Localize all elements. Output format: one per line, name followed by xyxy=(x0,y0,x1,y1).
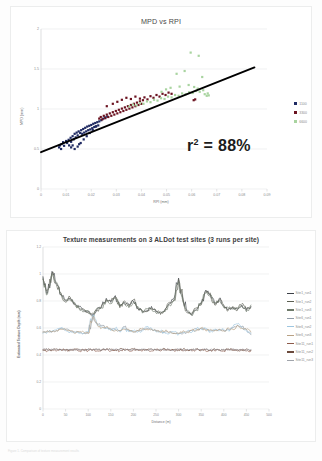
chart1-legend-item: 1100 xyxy=(294,99,307,108)
chart2-legend: Site1_run1Site1_run2Site1_run3Site6_run1… xyxy=(287,289,313,365)
chart2-legend-item: Site11_run2 xyxy=(287,348,313,356)
chart2-ytick: 0 xyxy=(25,407,41,411)
chart2-xtick: 300 xyxy=(169,413,189,417)
chart2-plot-area xyxy=(43,247,269,409)
chart1-xtick: 0.04 xyxy=(130,193,152,197)
chart2-legend-label: Site11_run2 xyxy=(295,350,313,354)
chart2-canvas xyxy=(43,247,269,409)
chart2-xtick: 200 xyxy=(123,413,143,417)
chart1-xtick: 0.02 xyxy=(80,193,102,197)
chart-texture-measurements: Texture measurements on 3 ALDot test sit… xyxy=(6,230,316,442)
chart1-ytick: 1.5 xyxy=(23,67,39,71)
chart2-xaxis-title: Distance (m) xyxy=(7,420,315,424)
chart2-series-3 xyxy=(43,315,251,335)
chart2-xtick: 350 xyxy=(191,413,211,417)
legend-line-icon xyxy=(287,351,294,352)
chart1-xaxis-title: RPI (mm) xyxy=(11,200,311,204)
chart1-canvas xyxy=(41,29,267,189)
chart1-xtick: 0.08 xyxy=(231,193,253,197)
chart2-legend-label: Site6_run1 xyxy=(295,316,311,320)
chart2-legend-label: Site11_run1 xyxy=(295,342,313,346)
legend-line-icon xyxy=(287,301,294,302)
legend-marker-icon xyxy=(294,111,297,114)
chart1-yaxis-title: MPD (mm) xyxy=(20,108,24,125)
chart2-legend-item: Site6_run2 xyxy=(287,323,313,331)
chart1-xtick: 0.07 xyxy=(206,193,228,197)
chart2-legend-label: Site6_run2 xyxy=(295,325,311,329)
legend-line-icon xyxy=(287,335,294,336)
chart1-xtick: 0.06 xyxy=(181,193,203,197)
chart2-xtick: 250 xyxy=(146,413,166,417)
chart2-series-0 xyxy=(43,271,251,315)
chart1-xtick: 0.09 xyxy=(256,193,278,197)
chart2-yaxis-title: Estimated Texture Depth (mm) xyxy=(17,310,21,358)
r-squared-annotation: r2 = 88% xyxy=(187,137,251,155)
chart2-legend-label: Site11_run3 xyxy=(295,358,313,362)
chart1-ytick: 2 xyxy=(23,27,39,31)
chart2-xtick: 100 xyxy=(78,413,98,417)
chart2-series-2 xyxy=(43,274,251,316)
chart2-ytick: 1.2 xyxy=(25,245,41,249)
chart2-legend-item: Site11_run1 xyxy=(287,339,313,347)
chart1-ytick: 0 xyxy=(23,187,39,191)
chart2-xtick: 500 xyxy=(259,413,279,417)
chart2-series-1 xyxy=(43,272,251,314)
chart1-legend-item: 6600 xyxy=(294,117,307,126)
chart1-legend-label: 6600 xyxy=(299,120,307,124)
chart1-ytick: 1 xyxy=(23,107,39,111)
chart1-legend: 110033006600 xyxy=(294,99,307,126)
legend-line-icon xyxy=(287,360,294,361)
chart2-title: Texture measurements on 3 ALDot test sit… xyxy=(7,236,315,243)
chart1-xtick: 0.01 xyxy=(55,193,77,197)
chart2-legend-label: Site1_run2 xyxy=(295,300,311,304)
chart2-legend-label: Site6_run3 xyxy=(295,333,311,337)
chart1-xtick: 0.05 xyxy=(156,193,178,197)
chart2-series-4 xyxy=(43,315,251,335)
figure-footnote: Figure 1. Comparison of texture measurem… xyxy=(8,449,79,453)
legend-line-icon xyxy=(287,309,294,310)
chart1-xtick: 0 xyxy=(30,193,52,197)
chart2-legend-item: Site1_run3 xyxy=(287,306,313,314)
chart1-title: MPD vs RPI xyxy=(11,17,311,26)
chart2-xtick: 150 xyxy=(101,413,121,417)
chart2-xtick: 400 xyxy=(214,413,234,417)
legend-line-icon xyxy=(287,343,294,344)
legend-marker-icon xyxy=(294,120,297,123)
chart2-xtick: 0 xyxy=(33,413,53,417)
chart1-legend-label: 1100 xyxy=(299,102,307,106)
chart2-legend-label: Site1_run1 xyxy=(295,291,311,295)
chart2-legend-item: Site1_run2 xyxy=(287,297,313,305)
chart2-legend-item: Site6_run1 xyxy=(287,314,313,322)
legend-marker-icon xyxy=(294,102,297,105)
chart1-xtick: 0.03 xyxy=(105,193,127,197)
document-page: MPD vs RPI r2 = 88% 110033006600 00.511.… xyxy=(0,0,322,461)
legend-line-icon xyxy=(287,293,294,294)
chart2-xtick: 450 xyxy=(236,413,256,417)
chart2-xtick: 50 xyxy=(56,413,76,417)
chart1-series-0 xyxy=(58,116,108,151)
chart-mpd-vs-rpi: MPD vs RPI r2 = 88% 110033006600 00.511.… xyxy=(10,6,312,218)
chart1-legend-label: 3300 xyxy=(299,111,307,115)
chart2-ytick: 1 xyxy=(25,272,41,276)
chart2-ytick: 0.8 xyxy=(25,299,41,303)
legend-line-icon xyxy=(287,318,294,319)
chart2-ytick: 0.6 xyxy=(25,326,41,330)
chart2-legend-item: Site11_run3 xyxy=(287,356,313,364)
chart2-ytick: 0.2 xyxy=(25,380,41,384)
chart2-ytick: 0.4 xyxy=(25,353,41,357)
chart2-legend-item: Site1_run1 xyxy=(287,289,313,297)
legend-line-icon xyxy=(287,326,294,327)
chart2-legend-item: Site6_run3 xyxy=(287,331,313,339)
chart1-ytick: 0.5 xyxy=(23,147,39,151)
chart2-legend-label: Site1_run3 xyxy=(295,308,311,312)
chart1-plot-area xyxy=(41,29,267,189)
chart1-legend-item: 3300 xyxy=(294,108,307,117)
